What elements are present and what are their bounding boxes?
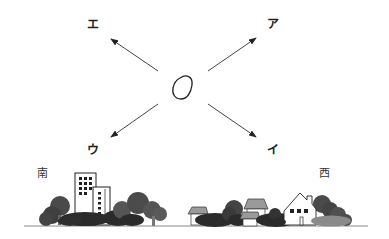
label-a: ア (267, 18, 279, 30)
arrow-down-left (111, 104, 158, 137)
center-object-icon (173, 76, 192, 99)
label-i: イ (267, 144, 279, 156)
diagram-svg (0, 0, 389, 239)
arrow-up-right (208, 38, 256, 71)
label-e: エ (87, 19, 99, 31)
arrow-up-left (111, 39, 158, 71)
diagram-canvas: エ ア ウ イ 南 西 (0, 0, 389, 239)
label-u: ウ (87, 144, 99, 156)
compass-south-label: 南 (37, 168, 48, 179)
arrow-down-right (208, 104, 256, 137)
compass-west-label: 西 (319, 168, 330, 179)
right-landscape (270, 193, 352, 227)
left-landscape (39, 173, 167, 226)
